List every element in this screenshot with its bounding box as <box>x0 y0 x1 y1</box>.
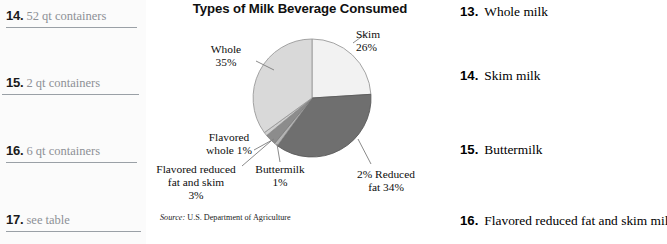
answer-number: 17. <box>6 212 23 227</box>
pie-label-flavored-whole-l1: Flavored <box>194 131 264 144</box>
leader-line-reduced-fat <box>358 139 371 164</box>
pie-chart-figure: Types of Milk Beverage Consumed <box>150 0 450 244</box>
answer-number: 16. <box>6 143 23 158</box>
pie-label-flavored-whole-l2: whole 1% <box>194 144 264 157</box>
answer-row: 15.2 qt containers <box>6 73 139 95</box>
pie-slices <box>253 39 371 157</box>
answer-text: 6 qt containers <box>26 144 100 158</box>
answer-number: 14. <box>6 8 23 23</box>
answer-text: see table <box>26 213 69 227</box>
question-row: 13.Whole milk <box>460 2 548 20</box>
question-number: 14. <box>460 68 478 83</box>
question-row: 16.Flavored reduced fat and skim milk <box>460 211 667 229</box>
question-number: 16. <box>460 213 478 228</box>
pie-label-reduced-fat-name: 2% Reduced <box>345 168 427 181</box>
question-text: Flavored reduced fat and skim milk <box>484 213 667 228</box>
pie-label-buttermilk: Buttermilk 1% <box>249 163 311 189</box>
answer-number: 15. <box>6 75 23 90</box>
answer-text: 52 qt containers <box>26 9 106 23</box>
pie-label-reduced-fat: 2% Reduced fat 34% <box>345 168 427 194</box>
chart-source-prefix: Source: <box>160 213 185 222</box>
answer-row: 17.see table <box>6 210 139 232</box>
answers-column: 14.52 qt containers 15.2 qt containers 1… <box>0 0 146 244</box>
question-row: 14.Skim milk <box>460 66 541 84</box>
answer-rule <box>2 94 139 95</box>
question-row: 15.Buttermilk <box>460 140 542 158</box>
question-number: 13. <box>460 4 478 19</box>
answer-rule <box>6 27 137 28</box>
pie-label-flavored-reduced-l2: fat and skim <box>151 176 241 189</box>
question-text: Whole milk <box>484 4 548 19</box>
pie-label-buttermilk-value: 1% <box>249 176 311 189</box>
pie-label-flavored-reduced-l1: Flavored reduced <box>151 163 241 176</box>
answer-row: 14.52 qt containers <box>6 6 139 28</box>
pie-label-flavored-whole: Flavored whole 1% <box>194 131 264 157</box>
chart-source-text: U.S. Department of Agriculture <box>187 213 290 222</box>
pie-label-flavored-reduced: Flavored reduced fat and skim 3% <box>151 163 241 202</box>
pie-label-whole-name: Whole <box>198 43 254 56</box>
answer-row: 16.6 qt containers <box>6 141 139 163</box>
pie-chart-graphic <box>150 0 450 244</box>
pie-label-whole: Whole 35% <box>198 43 254 69</box>
answer-rule <box>6 231 141 232</box>
pie-label-flavored-reduced-l3: 3% <box>151 189 241 202</box>
question-text: Skim milk <box>484 68 540 83</box>
pie-label-skim-name: Skim <box>356 28 380 41</box>
pie-label-reduced-fat-value: fat 34% <box>345 181 427 194</box>
pie-label-buttermilk-name: Buttermilk <box>249 163 311 176</box>
question-text: Buttermilk <box>484 142 542 157</box>
answer-text: 2 qt containers <box>26 76 100 90</box>
pie-label-skim: Skim 26% <box>356 28 380 54</box>
questions-column: 24 -1 13.Whole milk 14.Skim milk 15.Butt… <box>455 0 667 244</box>
pie-label-skim-value: 26% <box>356 41 380 54</box>
pie-label-whole-value: 35% <box>198 56 254 69</box>
question-number: 15. <box>460 142 478 157</box>
chart-source-note: Source: U.S. Department of Agriculture <box>160 213 291 222</box>
answer-rule <box>6 162 137 163</box>
